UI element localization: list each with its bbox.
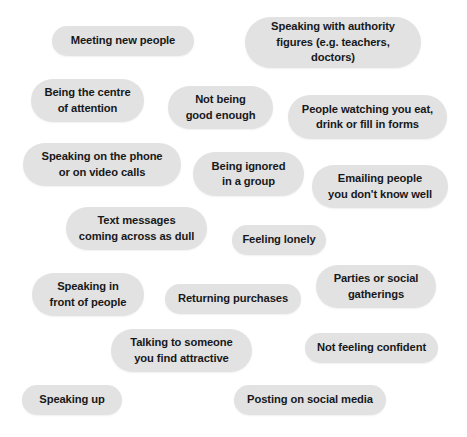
pill-feeling-lonely: Feeling lonely xyxy=(232,225,326,255)
pill-not-being-good-enough: Not being good enough xyxy=(168,86,273,129)
pill-text-messages-dull: Text messages coming across as dull xyxy=(66,207,207,250)
pill-meeting-new-people: Meeting new people xyxy=(52,26,194,56)
pill-label: Speaking with authority figures (e.g. te… xyxy=(255,19,411,66)
pill-label: Returning purchases xyxy=(178,291,288,307)
pill-speaking-with-authority: Speaking with authority figures (e.g. te… xyxy=(245,17,421,68)
pill-posting-on-social-media: Posting on social media xyxy=(234,385,386,415)
pill-not-feeling-confident: Not feeling confident xyxy=(305,333,438,363)
pill-label: Speaking in front of people xyxy=(50,279,127,310)
pill-label: Parties or social gatherings xyxy=(334,271,419,302)
pill-label: Meeting new people xyxy=(71,33,176,49)
pill-being-the-centre: Being the centre of attention xyxy=(31,79,144,122)
pill-label: Speaking up xyxy=(39,392,104,408)
pill-label: People watching you eat, drink or fill i… xyxy=(302,102,433,133)
pill-speaking-up: Speaking up xyxy=(22,385,122,415)
pill-parties-or-social: Parties or social gatherings xyxy=(316,265,436,308)
pill-being-ignored-in-a-group: Being ignored in a group xyxy=(193,152,304,196)
pill-returning-purchases: Returning purchases xyxy=(165,284,301,314)
pill-label: Emailing people you don't know well xyxy=(328,171,432,202)
pill-label: Speaking on the phone or on video calls xyxy=(42,149,163,180)
pill-emailing-people: Emailing people you don't know well xyxy=(312,165,448,208)
pill-label: Being the centre of attention xyxy=(44,85,130,116)
pill-label: Being ignored in a group xyxy=(212,159,286,190)
pill-label: Text messages coming across as dull xyxy=(79,213,194,244)
pill-label: Feeling lonely xyxy=(242,232,315,248)
pill-label: Talking to someone you find attractive xyxy=(130,335,232,366)
pill-talking-to-someone: Talking to someone you find attractive xyxy=(111,329,252,372)
pill-label: Posting on social media xyxy=(247,392,373,408)
word-cloud-canvas: Meeting new peopleSpeaking with authorit… xyxy=(0,0,467,437)
pill-speaking-on-the-phone: Speaking on the phone or on video calls xyxy=(23,143,181,186)
pill-label: Not being good enough xyxy=(186,92,256,123)
pill-speaking-in-front: Speaking in front of people xyxy=(32,273,144,316)
pill-label: Not feeling confident xyxy=(317,340,426,356)
pill-people-watching-you-eat: People watching you eat, drink or fill i… xyxy=(288,95,447,139)
